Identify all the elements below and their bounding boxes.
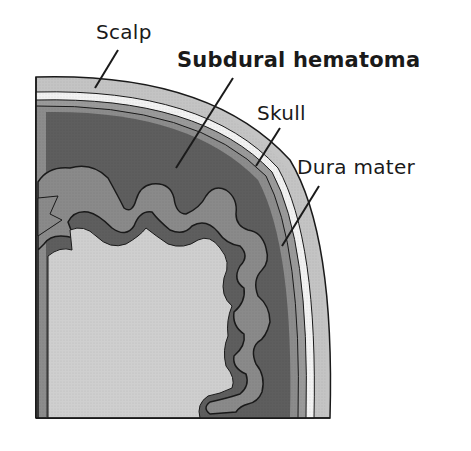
skull-label: Skull (257, 103, 306, 123)
subdural-hematoma-label: Subdural hematoma (177, 50, 420, 71)
dura-mater-label: Dura mater (297, 157, 415, 177)
scalp-label: Scalp (96, 22, 152, 42)
